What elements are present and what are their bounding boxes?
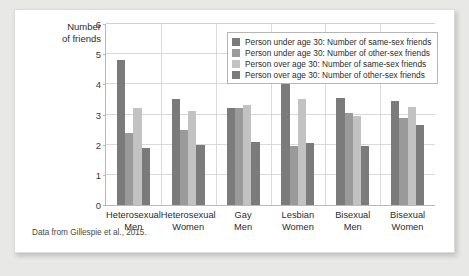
- y-axis-tick-label: 2: [96, 139, 101, 150]
- bar: [235, 108, 243, 205]
- y-axis-tick-label: 1: [96, 169, 101, 180]
- x-axis-category-label-line: Men: [335, 222, 370, 234]
- x-axis-category-label-line: Heterosexual: [161, 210, 216, 222]
- y-axis-tick-label: 5: [96, 49, 101, 60]
- x-axis-category-label: LesbianWomen: [282, 210, 315, 233]
- bar: [251, 142, 259, 205]
- bar: [180, 130, 188, 205]
- legend-swatch: [232, 60, 240, 68]
- figure-page: Number of friends 0123456 HeterosexualMe…: [0, 0, 469, 276]
- bar: [399, 118, 407, 205]
- x-axis-category-label-line: Women: [161, 222, 216, 234]
- bar: [290, 146, 298, 205]
- x-axis-category-label-line: Heterosexual: [106, 210, 161, 222]
- y-axis-title-line2: of friends: [31, 33, 101, 45]
- y-axis-tick-mark: [103, 205, 107, 206]
- x-axis-category-label: BisexualWomen: [390, 210, 425, 233]
- bar: [117, 60, 125, 205]
- legend-label: Person under age 30: Number of other-sex…: [245, 48, 430, 58]
- legend-item: Person under age 30: Number of other-sex…: [232, 47, 431, 58]
- bar: [353, 116, 361, 205]
- y-axis-tick-label: 6: [96, 19, 101, 30]
- x-axis-category-label-line: Gay: [234, 210, 252, 222]
- x-axis-category-label: BisexualMen: [335, 210, 370, 233]
- bar: [361, 146, 369, 205]
- x-axis-category-label-line: Women: [282, 222, 315, 234]
- bar: [281, 83, 289, 205]
- y-axis-tick-label: 3: [96, 109, 101, 120]
- x-axis-category-label: HeterosexualWomen: [161, 210, 216, 233]
- bar: [196, 145, 204, 205]
- x-axis-category-label: GayMen: [234, 210, 252, 233]
- bar: [345, 113, 353, 205]
- bar: [243, 105, 251, 205]
- bar-group-bars: [117, 24, 150, 205]
- bar: [391, 101, 399, 205]
- legend-swatch: [232, 49, 240, 57]
- figure-card: Number of friends 0123456 HeterosexualMe…: [14, 9, 455, 253]
- bar: [133, 108, 141, 205]
- bar: [416, 125, 424, 205]
- bar: [188, 111, 196, 205]
- legend-swatch: [232, 71, 240, 79]
- y-axis-title: Number of friends: [31, 21, 101, 44]
- bar: [336, 98, 344, 205]
- bar-group: HeterosexualMen: [106, 24, 161, 205]
- figure-caption: Data from Gillespie et al., 2015.: [32, 228, 147, 237]
- legend-label: Person under age 30: Number of same-sex …: [245, 37, 431, 47]
- bar: [408, 107, 416, 205]
- bar-group-bars: [172, 24, 205, 205]
- legend-item: Person over age 30: Number of same-sex f…: [232, 58, 431, 69]
- x-axis-category-label-line: Men: [234, 222, 252, 234]
- y-axis-tick-label: 0: [96, 200, 101, 211]
- x-axis-category-label-line: Lesbian: [282, 210, 315, 222]
- legend-label: Person over age 30: Number of same-sex f…: [245, 59, 426, 69]
- bar: [172, 99, 180, 205]
- x-axis-category-label-line: Women: [390, 222, 425, 234]
- bar: [142, 148, 150, 205]
- legend-swatch: [232, 38, 240, 46]
- legend-item: Person over age 30: Number of other-sex …: [232, 69, 431, 80]
- y-axis-tick-label: 4: [96, 79, 101, 90]
- bar: [298, 99, 306, 205]
- bar: [227, 108, 235, 205]
- chart-legend: Person under age 30: Number of same-sex …: [227, 32, 438, 84]
- bar-group: HeterosexualWomen: [161, 24, 216, 205]
- legend-label: Person over age 30: Number of other-sex …: [245, 70, 425, 80]
- x-axis-category-label-line: Bisexual: [390, 210, 425, 222]
- legend-item: Person under age 30: Number of same-sex …: [232, 36, 431, 47]
- bar: [306, 143, 314, 205]
- x-axis-category-label-line: Bisexual: [335, 210, 370, 222]
- bar: [125, 133, 133, 205]
- y-axis-title-line1: Number: [31, 21, 101, 33]
